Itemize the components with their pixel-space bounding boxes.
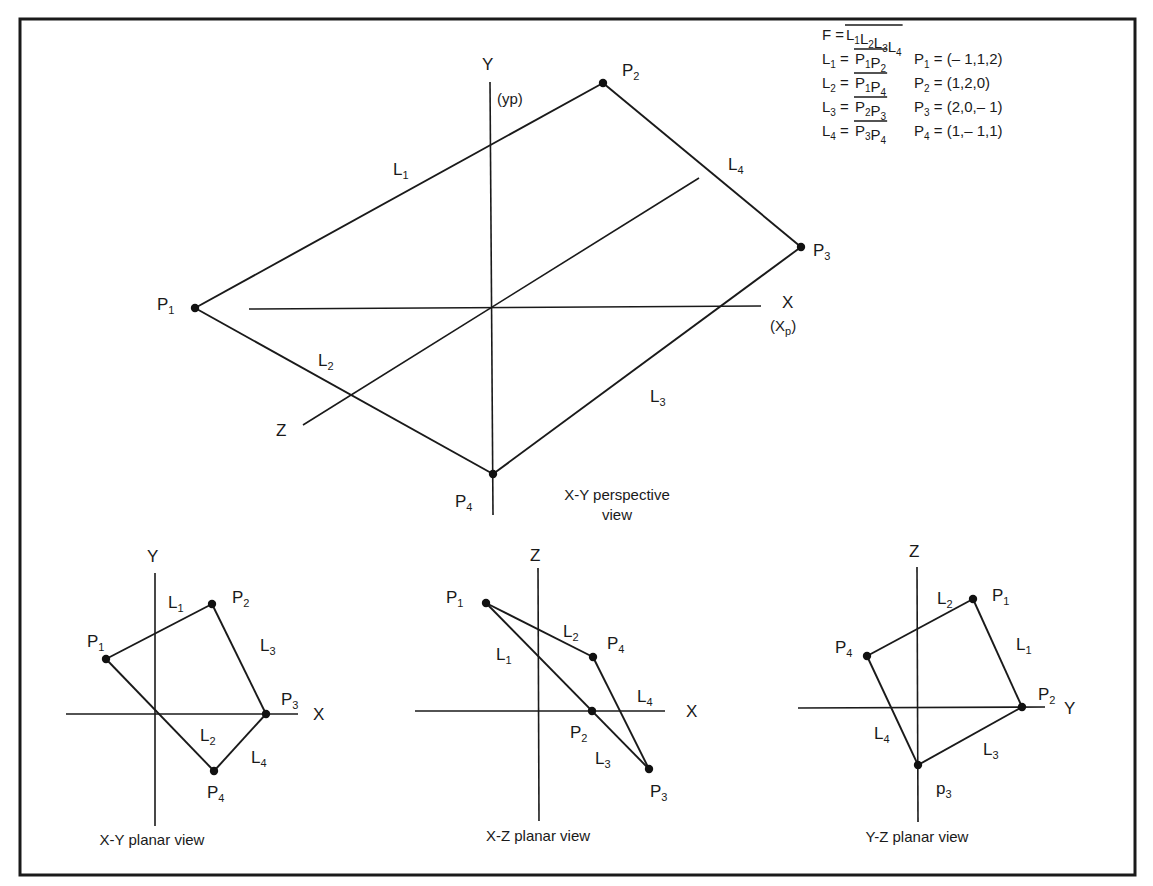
vertex-point-icon <box>797 243 805 251</box>
axis-z <box>917 567 918 822</box>
vertex-label: P3 <box>281 690 298 711</box>
axis-label-x: X <box>782 293 793 312</box>
vertex-label: P1 <box>87 632 104 653</box>
vertex-label: P1 <box>992 586 1009 607</box>
edge-line <box>195 83 603 308</box>
edge-line <box>212 604 266 714</box>
vertex-label: P4 <box>207 783 224 804</box>
vertex-point-icon <box>863 652 871 660</box>
vertex-point-icon <box>208 600 216 608</box>
vertex-point-icon <box>489 470 497 478</box>
legend-term: P3P4 <box>855 122 887 146</box>
view-caption: X-Y perspective <box>564 486 670 503</box>
axis-z <box>538 568 539 821</box>
legend-line-lhs: L1 = <box>822 50 849 70</box>
edge-label: L1 <box>496 645 512 666</box>
edge-label: L1 <box>1016 635 1032 656</box>
legend-point-coords: P3 = (2,0,– 1) <box>914 98 1003 118</box>
edge-label: L2 <box>318 351 334 372</box>
axis-alias-x: (Xp) <box>770 317 796 337</box>
legend-point-coords: P2 = (1,2,0) <box>914 74 990 94</box>
axis-label-z: Z <box>530 546 540 565</box>
edge-label: L3 <box>650 387 666 408</box>
view-caption: Y-Z planar view <box>866 828 969 845</box>
view-yz-planar: ZYP1P2p3P4L2L1L4L3Y-Z planar view <box>798 542 1075 845</box>
axis-label-x: X <box>313 705 324 724</box>
vertex-point-icon <box>210 767 218 775</box>
axis-y <box>490 82 493 515</box>
vertex-point-icon <box>599 79 607 87</box>
edge-label: L2 <box>563 622 579 643</box>
vertex-point-icon <box>969 595 977 603</box>
vertex-label: P1 <box>157 295 174 316</box>
vertex-label: P1 <box>446 588 463 609</box>
edge-line <box>867 656 918 765</box>
axis-label-z: Z <box>276 421 286 440</box>
vertex-label: P4 <box>455 492 472 513</box>
axis-label-y: Y <box>1064 699 1075 718</box>
legend-line-lhs: L3 = <box>822 98 849 118</box>
view-xy-planar: YXP1P2P3P4L1L3L2L4X-Y planar view <box>66 547 324 848</box>
axis-label-z: Z <box>909 542 919 561</box>
vertex-label: P3 <box>650 782 667 803</box>
edge-label: L3 <box>260 636 276 657</box>
vertex-point-icon <box>589 653 597 661</box>
axis-x <box>249 306 761 309</box>
edge-line <box>918 707 1022 765</box>
vertex-point-icon <box>588 707 596 715</box>
view-caption: X-Y planar view <box>100 831 205 848</box>
vertex-label: P2 <box>232 588 249 609</box>
legend-term: P2P3 <box>855 98 887 122</box>
edge-label: L4 <box>637 687 653 708</box>
edge-line <box>106 604 212 659</box>
vertex-label: P4 <box>835 638 852 659</box>
edge-label: L1 <box>168 593 184 614</box>
edge-label: L3 <box>983 740 999 761</box>
legend-row: L4 =P3P4P4 = (1,– 1,1) <box>822 121 1003 146</box>
vertex-label: p3 <box>936 779 952 800</box>
legend-line-lhs: L2 = <box>822 74 849 94</box>
legend: F =L1L2L3L4L1 =P1P2P1 = (– 1,1,2)L2 =P1P… <box>822 25 1003 146</box>
edge-line <box>867 599 973 656</box>
diagram-canvas: F =L1L2L3L4L1 =P1P2P1 = (– 1,1,2)L2 =P1P… <box>0 0 1153 886</box>
edge-line <box>493 247 801 474</box>
edge-label: L2 <box>200 726 216 747</box>
view-perspective: Y(yp)X(Xp)ZP1P2P3P4L1L4L2L3X-Y perspecti… <box>157 55 830 523</box>
vertex-point-icon <box>482 599 490 607</box>
view-caption: view <box>602 506 632 523</box>
legend-face-lhs: F = <box>822 26 844 43</box>
legend-term: P1P4 <box>855 74 887 98</box>
vertex-point-icon <box>191 304 199 312</box>
vertex-label: P2 <box>622 61 639 82</box>
vertex-label: P4 <box>607 634 624 655</box>
legend-line-lhs: L4 = <box>822 122 849 142</box>
axis-label-x: X <box>686 702 697 721</box>
edge-line <box>106 659 214 771</box>
axis-y <box>798 707 1045 708</box>
vertex-point-icon <box>102 655 110 663</box>
edge-label: L4 <box>251 748 267 769</box>
legend-row: L2 =P1P4P2 = (1,2,0) <box>822 73 990 98</box>
view-caption: X-Z planar view <box>486 827 590 844</box>
axis-alias-y: (yp) <box>497 90 523 107</box>
vertex-point-icon <box>1018 703 1026 711</box>
vertex-label: P2 <box>570 723 587 744</box>
edge-label: L4 <box>728 155 744 176</box>
legend-point-coords: P4 = (1,– 1,1) <box>914 122 1003 142</box>
vertex-point-icon <box>645 765 653 773</box>
vertex-label: P2 <box>1038 685 1055 706</box>
edge-label: L3 <box>595 749 611 770</box>
vertex-point-icon <box>914 761 922 769</box>
vertex-label: P3 <box>813 241 830 262</box>
legend-row: L1 =P1P2P1 = (– 1,1,2) <box>822 49 1003 74</box>
views: Y(yp)X(Xp)ZP1P2P3P4L1L4L2L3X-Y perspecti… <box>66 55 1075 848</box>
axis-label-y: Y <box>147 547 158 566</box>
edge-label: L4 <box>874 724 890 745</box>
vertex-point-icon <box>262 710 270 718</box>
view-xz-planar: ZXP1P2P3P4L2L1L4L3X-Z planar view <box>415 546 697 844</box>
edge-line <box>195 308 493 474</box>
edge-label: L2 <box>937 589 953 610</box>
edge-label: L1 <box>393 160 409 181</box>
edge-line <box>973 599 1022 707</box>
legend-row: L3 =P2P3P3 = (2,0,– 1) <box>822 97 1003 122</box>
